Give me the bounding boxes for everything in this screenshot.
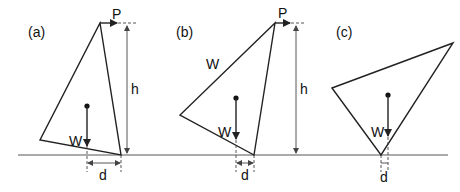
- side-label-b: W: [206, 56, 220, 72]
- distance-label-a: d: [99, 167, 107, 183]
- panel-b: (b) P W h W d: [176, 5, 308, 183]
- weight-label-c: W: [371, 124, 385, 140]
- panel-c: (c) W d: [332, 24, 453, 185]
- block-c: [332, 43, 453, 155]
- panel-b-label: (b): [176, 24, 193, 40]
- height-label-b: h: [300, 81, 308, 97]
- diagram-canvas: (a) P h W d (b) P W h W d (c): [0, 0, 460, 192]
- distance-label-b: d: [241, 167, 249, 183]
- force-label-b: P: [278, 5, 287, 21]
- panel-a-label: (a): [28, 24, 45, 40]
- height-label-a: h: [131, 81, 139, 97]
- force-label-a: P: [112, 6, 121, 22]
- panel-a: (a) P h W d: [28, 6, 139, 183]
- weight-label-b: W: [218, 124, 232, 140]
- distance-label-c: d: [380, 169, 388, 185]
- weight-label-a: W: [69, 133, 83, 149]
- panel-c-label: (c): [336, 24, 352, 40]
